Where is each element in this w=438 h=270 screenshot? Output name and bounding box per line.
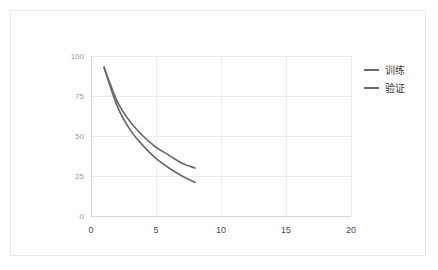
x-tick-15: 15 xyxy=(281,225,291,235)
figure-card: 100 75 50 25 0 0 5 10 15 20 xyxy=(10,10,426,256)
x-tick-5: 5 xyxy=(153,225,158,235)
x-tick-labels: 0 5 10 15 20 xyxy=(88,225,356,235)
chart-svg: 100 75 50 25 0 0 5 10 15 20 xyxy=(11,11,427,257)
line-chart: 100 75 50 25 0 0 5 10 15 20 xyxy=(11,11,427,257)
y-tick-0: 0 xyxy=(80,212,85,221)
legend-label-validation: 验证 xyxy=(385,82,405,94)
legend-label-training: 训练 xyxy=(385,64,405,76)
x-tick-20: 20 xyxy=(346,225,356,235)
y-tick-labels: 100 75 50 25 0 xyxy=(71,52,85,221)
y-tick-100: 100 xyxy=(71,52,85,61)
legend: 训练 验证 xyxy=(364,64,405,94)
y-tick-75: 75 xyxy=(75,92,84,101)
x-tick-10: 10 xyxy=(216,225,226,235)
y-tick-25: 25 xyxy=(75,172,84,181)
y-tick-50: 50 xyxy=(75,132,84,141)
x-tick-0: 0 xyxy=(88,225,93,235)
